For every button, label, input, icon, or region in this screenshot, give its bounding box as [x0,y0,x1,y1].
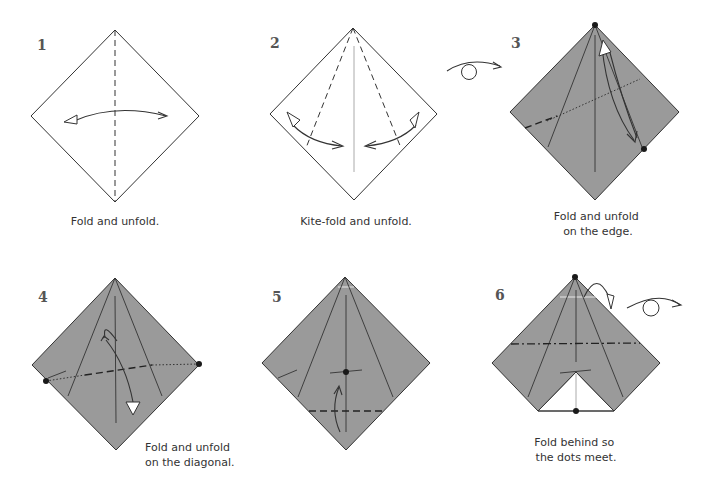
origami-diagram: 1 Fold and unfold. 2 Kite-fold and unfol… [0,0,713,478]
reference-dot-edge [641,146,647,152]
reference-dot-bottom [573,408,579,414]
step-4: 4 Fold and unfold on the diagonal. [32,278,235,469]
square-paper [510,25,679,200]
reference-dot-top [592,22,598,28]
step-1: 1 Fold and unfold. [31,30,199,228]
step-2: 2 Kite-fold and unfold. [270,28,437,228]
reference-dot-right [196,361,202,367]
step-number: 2 [270,35,280,51]
reference-dot-top [572,274,578,280]
step-caption: Kite-fold and unfold. [300,215,412,228]
step-caption: Fold and unfold on the diagonal. [145,441,235,469]
step-number: 5 [272,289,282,305]
turn-over-arrow-icon [627,298,681,316]
step-number: 1 [37,37,47,53]
step-6: 6 Fold behind so the dots meet. [492,274,681,464]
step-caption: Fold behind so the dots meet. [534,436,617,464]
reference-dot-left [43,378,49,384]
step-caption: Fold and unfold. [71,215,159,228]
step-number: 4 [38,289,48,305]
step-number: 6 [495,287,505,303]
reference-dot-center [343,369,349,375]
step-number: 3 [511,35,521,51]
step-caption: Fold and unfold on the edge. [554,210,642,238]
turn-over-arrow-icon [447,62,501,80]
step-3: 3 Fold and unfold on the edge. [510,22,679,238]
step-5: 5 [262,277,430,450]
